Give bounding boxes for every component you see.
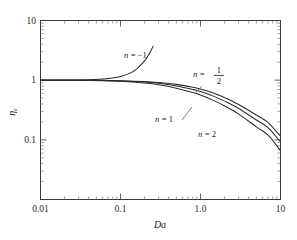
y-tick-label-2: 0.1 (24, 135, 36, 145)
x-axis-label: Da (153, 219, 166, 230)
x-tick-label-2: 1.0 (195, 204, 207, 214)
annotation-fraction-denominator: 2 (217, 76, 221, 86)
annotation-n-minus-1: n= −1 (124, 50, 147, 60)
annotation-n-2: n= 2 (198, 129, 216, 139)
y-tick-label-0: 10 (27, 16, 37, 26)
annotation-n-minus-1-text: n= −1 (124, 50, 147, 60)
y-tick-label-1: 1 (31, 75, 36, 85)
x-tick-label-0: 0.01 (32, 204, 49, 214)
log-log-plot: 0.01 0.1 1.0 10 10 1 0.1 Da ηe n= −1 (0, 0, 297, 240)
x-tick-label-1: 0.1 (115, 204, 127, 214)
annotation-n-2-text: n= 2 (198, 129, 216, 139)
figure-container: 0.01 0.1 1.0 10 10 1 0.1 Da ηe n= −1 (0, 0, 297, 240)
annotation-n-one-half-text: n= (193, 69, 205, 79)
x-tick-label-3: 10 (276, 204, 286, 214)
annotation-fraction-numerator: 1 (217, 65, 221, 75)
annotation-n-1-text: n= 1 (155, 114, 173, 124)
